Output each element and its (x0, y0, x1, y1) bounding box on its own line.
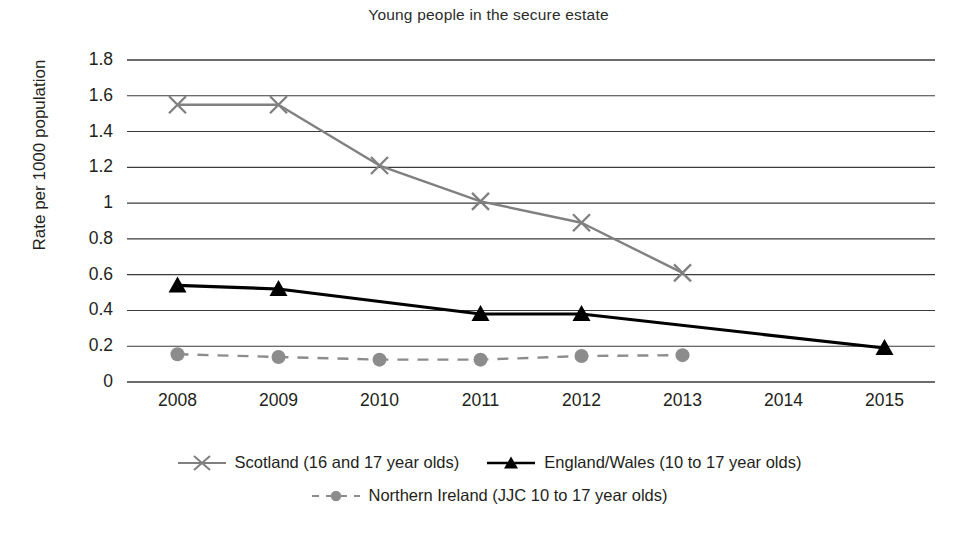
legend-key-northern-ireland-dashed-circle-marker (310, 487, 362, 505)
series-3 (171, 347, 690, 366)
x-axis-tick-label: 2015 (830, 390, 940, 411)
data-point-marker (676, 348, 690, 362)
series-line (178, 354, 683, 359)
y-axis-tick-label: 0.8 (43, 228, 113, 249)
data-point-marker (371, 157, 388, 174)
y-axis-tick-label: 1.8 (43, 49, 113, 70)
y-axis-tick-label: 0.4 (43, 299, 113, 320)
x-axis-tick-label: 2012 (527, 390, 637, 411)
gridlines (127, 60, 935, 382)
chart-legend: Scotland (16 and 17 year olds) England/W… (0, 446, 977, 512)
legend-label-england-wales: England/Wales (10 to 17 year olds) (544, 453, 801, 472)
data-point-marker (373, 353, 387, 367)
legend-entry-northern-ireland: Northern Ireland (JJC 10 to 17 year olds… (310, 486, 668, 505)
data-point-marker (674, 264, 691, 281)
series-line (178, 105, 683, 273)
x-axis-tick-label: 2013 (628, 390, 738, 411)
legend-key-scotland-line-x-marker (176, 454, 228, 472)
legend-key-england-wales-line-triangle-marker (485, 454, 537, 472)
y-axis-tick-label: 0 (43, 371, 113, 392)
y-axis-tick-label: 1 (43, 192, 113, 213)
chart-figure: Young people in the secure estate Rate p… (0, 0, 977, 539)
data-point-marker (272, 350, 286, 364)
y-axis-tick-label: 1.6 (43, 85, 113, 106)
legend-entry-england-wales: England/Wales (10 to 17 year olds) (485, 453, 801, 472)
x-axis-tick-label: 2014 (729, 390, 839, 411)
data-point-marker (573, 214, 590, 231)
series-layer (169, 96, 894, 366)
legend-label-scotland: Scotland (16 and 17 year olds) (235, 453, 460, 472)
legend-row-2: Northern Ireland (JJC 10 to 17 year olds… (0, 479, 977, 512)
y-axis-tick-label: 1.2 (43, 156, 113, 177)
series-1 (169, 96, 691, 281)
x-axis-tick-label: 2008 (123, 390, 233, 411)
x-axis-tick-label: 2009 (224, 390, 334, 411)
legend-label-northern-ireland: Northern Ireland (JJC 10 to 17 year olds… (369, 486, 668, 505)
data-point-marker (171, 347, 185, 361)
x-axis-tick-label: 2010 (325, 390, 435, 411)
x-axis-tick-label: 2011 (426, 390, 536, 411)
y-axis-tick-label: 0.2 (43, 335, 113, 356)
legend-row-1: Scotland (16 and 17 year olds) England/W… (0, 446, 977, 479)
data-point-marker (575, 349, 589, 363)
data-point-marker (472, 193, 489, 210)
legend-entry-scotland: Scotland (16 and 17 year olds) (176, 453, 460, 472)
y-axis-tick-label: 0.6 (43, 264, 113, 285)
y-axis-tick-label: 1.4 (43, 121, 113, 142)
series-2 (169, 276, 894, 355)
data-point-marker (474, 353, 488, 367)
